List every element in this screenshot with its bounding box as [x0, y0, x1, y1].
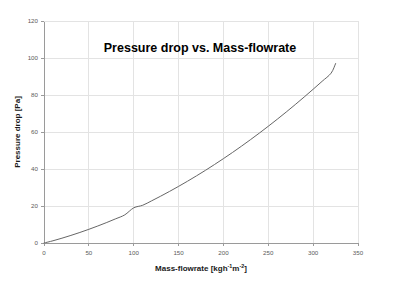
x-tick-label-100: 100 — [129, 249, 140, 256]
x-tick-label-250: 250 — [263, 249, 274, 256]
x-axis-title-mid: m — [232, 264, 239, 273]
y-tick-label-100: 100 — [28, 54, 39, 61]
y-tick-label-80: 80 — [31, 91, 38, 98]
x-tick-label-150: 150 — [173, 249, 184, 256]
y-tick-label-60: 60 — [31, 128, 38, 135]
x-tick-label-50: 50 — [85, 249, 92, 256]
y-axis-title: Pressure drop [Pa] — [13, 96, 22, 168]
y-tick-label-40: 40 — [31, 165, 38, 172]
x-tick-label-0: 0 — [42, 249, 46, 256]
x-tick-label-350: 350 — [353, 249, 364, 256]
x-axis-title: Mass-flowrate [kgh-1m-2] — [155, 263, 247, 273]
y-tick-label-20: 20 — [31, 202, 38, 209]
x-axis-title-main: Mass-flowrate [kgh — [155, 264, 228, 273]
x-axis-title-end: ] — [244, 264, 247, 273]
chart-container: 050100150200250300350 020406080100120 Pr… — [0, 0, 400, 286]
y-tick-label-0: 0 — [35, 239, 39, 246]
y-tick-label-120: 120 — [28, 17, 39, 24]
x-tick-label-300: 300 — [308, 249, 319, 256]
pressure-drop-line-chart: 050100150200250300350 020406080100120 Pr… — [0, 0, 400, 286]
x-tick-label-200: 200 — [218, 249, 229, 256]
chart-title: Pressure drop vs. Mass-flowrate — [104, 41, 296, 55]
